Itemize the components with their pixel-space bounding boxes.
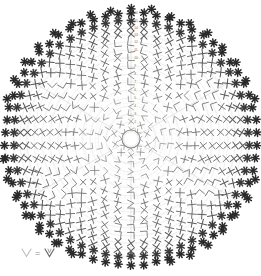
legend-symbol-left (22, 249, 31, 257)
center-ring-group (122, 130, 140, 148)
round-number-group: 12345678910111213141516 (134, 11, 138, 132)
round-number: 10 (134, 56, 138, 60)
round-number: 14 (134, 26, 138, 30)
round-number: 3 (134, 112, 136, 116)
round-number: 11 (134, 48, 138, 52)
round-number: 12 (134, 40, 138, 44)
round-number: 13 (134, 33, 138, 37)
round-number: 7 (134, 80, 136, 84)
legend-equals: = (35, 248, 40, 258)
legend-symbol-right (45, 249, 54, 257)
round-number: 1 (134, 128, 136, 132)
round-number: 9 (134, 64, 136, 68)
legend: = (22, 248, 54, 258)
round-number: 4 (134, 104, 136, 108)
round-number: 2 (134, 120, 136, 124)
round-number: 5 (134, 96, 136, 100)
round-number: 6 (134, 88, 136, 92)
chart-canvas: 12345678910111213141516 = (0, 0, 261, 276)
round-number: 8 (134, 72, 136, 76)
round-number: 16 (134, 11, 138, 15)
round-number: 15 (134, 19, 138, 23)
crochet-pattern-diagram: 12345678910111213141516 = (0, 0, 261, 276)
